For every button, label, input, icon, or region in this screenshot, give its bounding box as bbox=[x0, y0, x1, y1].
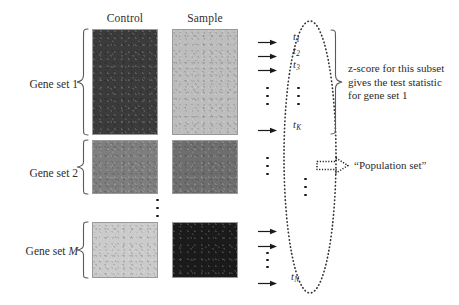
statistic-label-tN: tN bbox=[291, 271, 299, 282]
column-header-control: Control bbox=[92, 12, 158, 24]
arrow-to-t1 bbox=[258, 33, 278, 42]
statistic-label-t2: t2 bbox=[293, 45, 300, 56]
statistic-sub-tN: N bbox=[294, 276, 299, 284]
matrix-vertical-ellipsis bbox=[155, 199, 160, 217]
arrow-group-2-ellipsis bbox=[265, 157, 270, 175]
arrow-group-m-ellipsis bbox=[265, 252, 270, 268]
arrow-to-t2 bbox=[258, 47, 278, 56]
zscore-annotation: z-score for this subset gives the test s… bbox=[348, 62, 444, 103]
arrow-group-1-ellipsis bbox=[265, 87, 270, 105]
arrow-to-tK bbox=[258, 121, 278, 130]
heatblock-gene-set-1-control bbox=[92, 29, 158, 135]
statistic-label-t3: t3 bbox=[293, 59, 300, 70]
gene-set-enrichment-diagram: Control Sample Gene set 1 Gene set 2 Gen… bbox=[0, 0, 459, 305]
brace-gene-set-2 bbox=[76, 139, 89, 195]
row-label-gene-set-1: Gene set 1 bbox=[10, 78, 78, 90]
statistic-mid-ellipsis bbox=[303, 178, 308, 196]
arrow-to-tm-2 bbox=[258, 237, 278, 246]
arrow-to-tN bbox=[258, 274, 278, 283]
statistic-sub-t2: 2 bbox=[296, 50, 300, 58]
brace-gene-set-1 bbox=[76, 28, 89, 136]
row-label-gene-set-m: Gene set M bbox=[8, 245, 78, 257]
population-set-label: “Population set” bbox=[354, 159, 426, 171]
brace-zscore-group bbox=[330, 29, 343, 135]
zscore-annotation-line-3: for gene set 1 bbox=[348, 89, 444, 103]
zscore-annotation-line-2: gives the test statistic bbox=[348, 76, 444, 90]
row-label-gene-set-m-text: Gene set bbox=[26, 245, 69, 257]
statistic-sub-t1: 1 bbox=[296, 36, 300, 44]
statistic-label-tK: tK bbox=[293, 119, 301, 130]
heatblock-gene-set-m-control bbox=[92, 222, 158, 278]
heatblock-gene-set-2-control bbox=[92, 140, 158, 194]
statistic-sub-t3: 3 bbox=[296, 64, 300, 72]
heatblock-gene-set-2-sample bbox=[172, 140, 238, 194]
population-set-callout-arrow bbox=[316, 157, 349, 174]
zscore-annotation-line-1: z-score for this subset bbox=[348, 62, 444, 76]
heatblock-gene-set-1-sample bbox=[172, 29, 238, 135]
statistic-sub-tK: K bbox=[296, 124, 301, 132]
column-header-sample: Sample bbox=[172, 12, 238, 24]
row-label-gene-set-2: Gene set 2 bbox=[10, 167, 78, 179]
statistic-group-1-ellipsis bbox=[296, 87, 301, 105]
arrow-to-tm-1 bbox=[258, 222, 278, 231]
arrow-to-t3 bbox=[258, 61, 278, 70]
statistic-label-t1: t1 bbox=[293, 31, 300, 42]
brace-gene-set-m bbox=[76, 221, 89, 279]
heatblock-gene-set-m-sample bbox=[172, 222, 238, 278]
